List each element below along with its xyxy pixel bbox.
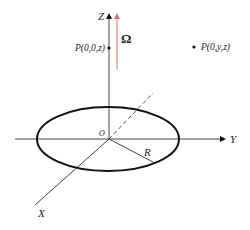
radius-label: R [143, 146, 151, 158]
disc-diagram: Z Ω P(0,0,z) P(0,y,z) O Y R X [0, 0, 250, 230]
dashed-axis-extension [109, 93, 153, 139]
point-on-axis-dot [107, 46, 110, 49]
origin-label: O [99, 129, 105, 138]
omega-label: Ω [121, 31, 131, 46]
y-axis-label: Y [230, 133, 238, 145]
point-off-axis-dot [192, 45, 195, 48]
point-on-axis-label: P(0,0,z) [74, 43, 105, 54]
z-axis-label: Z [98, 10, 105, 22]
x-axis [35, 139, 109, 205]
x-axis-label: X [37, 207, 46, 219]
point-off-axis-label: P(0,y,z) [200, 42, 230, 53]
